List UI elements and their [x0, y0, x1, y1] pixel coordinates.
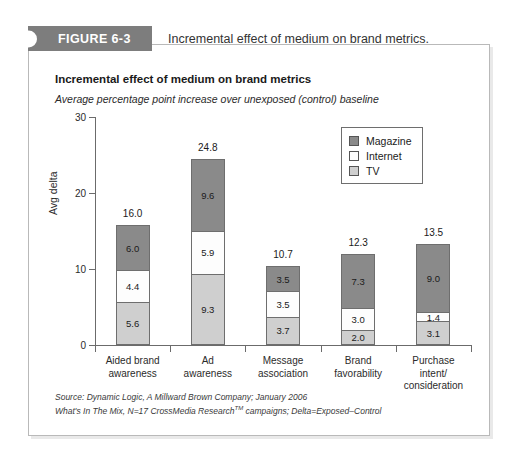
bar-segment-tv[interactable]: 9.3 [191, 274, 225, 345]
y-axis-tick-label: 0 [80, 340, 86, 351]
source-note-line2-f: Exposed [316, 406, 349, 416]
legend-label-tv: TV [366, 165, 379, 177]
stacked-bar[interactable]: 3.53.53.7 [266, 264, 300, 345]
bar-total-label: 13.5 [424, 227, 443, 238]
y-axis-tick-mark [89, 193, 96, 194]
category-label-line: favorability [316, 368, 400, 381]
y-axis-tick-label: 20 [75, 188, 86, 199]
y-axis-tick-mark [89, 269, 96, 270]
x-axis-tick-mark [95, 345, 96, 352]
category-label-line: consideration [391, 380, 475, 393]
x-axis-category-label: Adawareness [166, 355, 250, 380]
stacked-bar[interactable]: 9.01.43.1 [416, 242, 450, 345]
bar-segment-magazine[interactable]: 9.6 [191, 159, 225, 232]
legend-item-internet: Internet [349, 148, 412, 163]
figure-panel: Incremental effect of medium on brand me… [28, 44, 490, 436]
chart-subtitle: Average percentage point increase over u… [55, 93, 379, 105]
category-label-line: intent/ [391, 368, 475, 381]
figure-container: FIGURE 6-3 Incremental effect of medium … [0, 0, 519, 461]
x-axis-category-label: Messageassociation [241, 355, 325, 380]
figure-caption: Incremental effect of medium on brand me… [152, 26, 429, 51]
category-label-line: awareness [91, 368, 175, 381]
legend-swatch-tv-icon [349, 166, 359, 176]
bar-total-label: 16.0 [123, 208, 142, 219]
legend-item-tv: TV [349, 163, 412, 178]
figure-number-badge: FIGURE 6-3 [28, 26, 152, 51]
bar-segment-internet[interactable]: 3.0 [341, 308, 375, 331]
source-note-line-2: What's In The Mix, N=17 CrossMedia Resea… [55, 403, 381, 417]
bar-total-label: 10.7 [273, 249, 292, 260]
x-axis-line [95, 345, 471, 346]
source-note-trademark: TM [235, 405, 244, 411]
x-axis-tick-mark [170, 345, 171, 352]
source-note-line2-c: 17 CrossMedia Research [139, 406, 235, 416]
x-axis-tick-mark [396, 345, 397, 352]
source-note-line2-h: Control [354, 406, 381, 416]
category-label-line: awareness [166, 368, 250, 381]
category-label-line: association [241, 368, 325, 381]
figure-number-label: FIGURE 6-3 [58, 32, 131, 46]
stacked-bar[interactable]: 6.04.45.6 [116, 223, 150, 345]
bar-segment-magazine[interactable]: 7.3 [341, 254, 375, 309]
y-axis-tick-label: 10 [75, 264, 86, 275]
x-axis-tick-mark [321, 345, 322, 352]
legend-item-magazine: Magazine [349, 133, 412, 148]
bar-segment-internet[interactable]: 3.5 [266, 291, 300, 318]
bar-total-label: 24.8 [198, 142, 217, 153]
category-label-line: Message [241, 355, 325, 368]
bar-segment-magazine[interactable]: 3.5 [266, 266, 300, 293]
category-label-line: Brand [316, 355, 400, 368]
x-axis-category-label: Aided brandawareness [91, 355, 175, 380]
bar-segment-internet[interactable]: 4.4 [116, 270, 150, 303]
legend-label-magazine: Magazine [366, 135, 412, 147]
bar-segment-tv[interactable]: 5.6 [116, 302, 150, 345]
bar-segment-tv[interactable]: 3.7 [266, 317, 300, 345]
x-axis-tick-mark [471, 345, 472, 352]
legend-swatch-internet-icon [349, 151, 359, 161]
y-axis-line [95, 117, 96, 345]
bar-segment-tv[interactable]: 3.1 [416, 321, 450, 345]
source-note-line2-d: campaigns; Delta [243, 406, 311, 416]
category-label-line: Aided brand [91, 355, 175, 368]
x-axis-category-label: Brandfavorability [316, 355, 400, 380]
source-note-line2-a: What's In The Mix, N [55, 406, 134, 416]
y-axis-tick-label: 30 [75, 112, 86, 123]
bar-segment-internet[interactable]: 5.9 [191, 231, 225, 276]
badge-notch-circle-icon [20, 30, 37, 47]
chart-legend: Magazine Internet TV [341, 127, 423, 184]
y-axis-title: Avg delta [47, 171, 59, 215]
stacked-bar[interactable]: 9.65.99.3 [191, 157, 225, 345]
category-label-line: Ad [166, 355, 250, 368]
bar-segment-tv[interactable]: 2.0 [341, 330, 375, 345]
legend-label-internet: Internet [366, 150, 402, 162]
bar-total-label: 12.3 [348, 237, 367, 248]
x-axis-category-label: Purchaseintent/consideration [391, 355, 475, 393]
bar-segment-magazine[interactable]: 9.0 [416, 244, 450, 312]
source-note-line-1: Source: Dynamic Logic, A Millward Brown … [55, 392, 381, 403]
chart-title: Incremental effect of medium on brand me… [55, 73, 311, 85]
x-axis-tick-mark [245, 345, 246, 352]
legend-swatch-magazine-icon [349, 136, 359, 146]
y-axis-tick-mark [89, 117, 96, 118]
bar-segment-magazine[interactable]: 6.0 [116, 225, 150, 271]
stacked-bar[interactable]: 7.33.02.0 [341, 252, 375, 345]
category-label-line: Purchase [391, 355, 475, 368]
source-note: Source: Dynamic Logic, A Millward Brown … [55, 392, 381, 417]
figure-header: FIGURE 6-3 Incremental effect of medium … [28, 26, 429, 51]
